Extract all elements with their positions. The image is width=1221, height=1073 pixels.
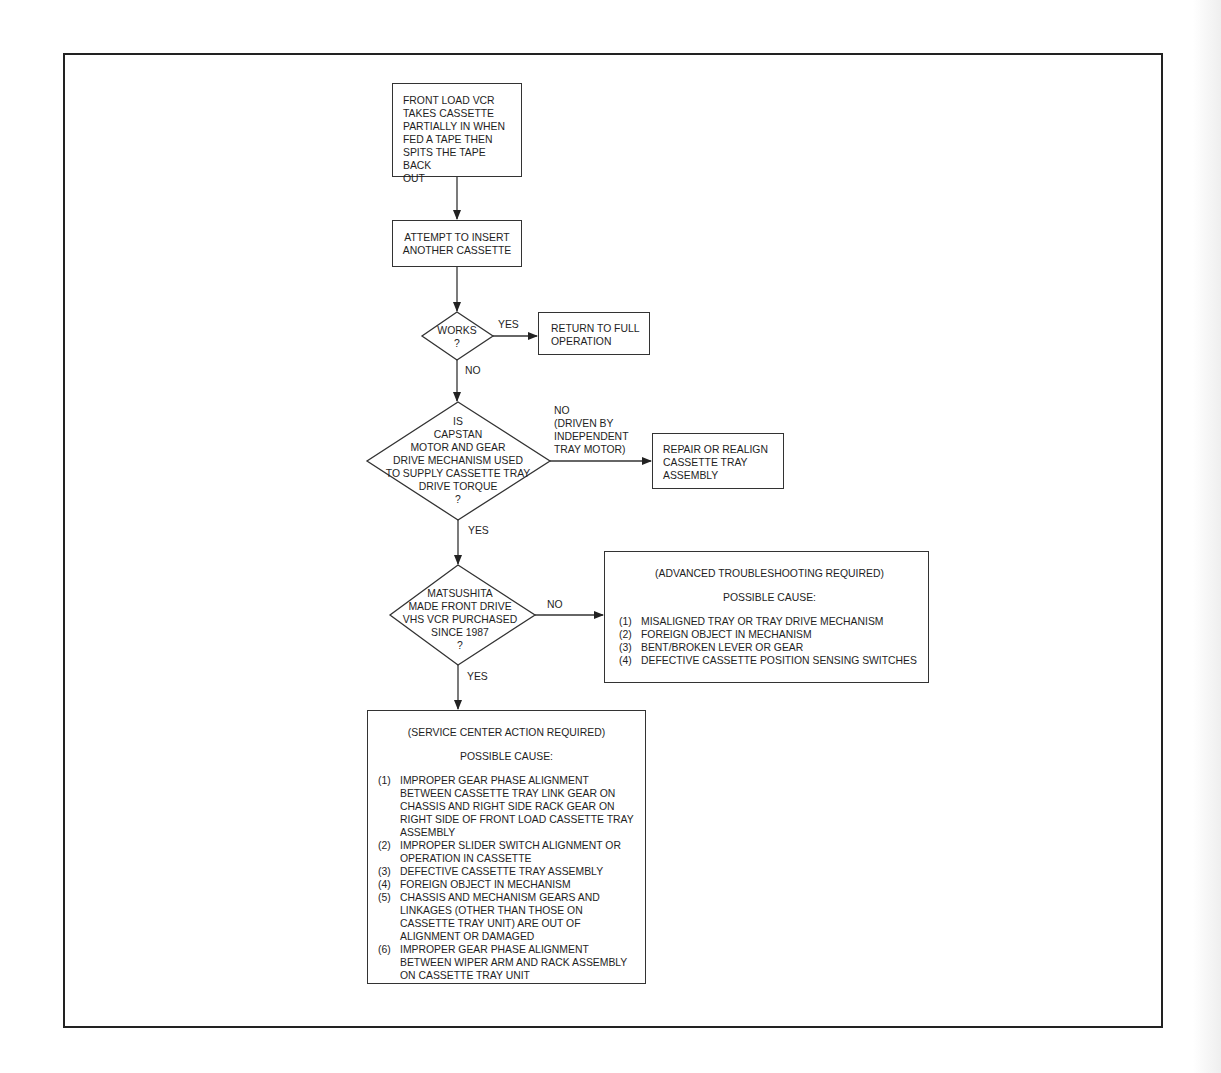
service-center-box: (SERVICE CENTER ACTION REQUIRED) POSSIBL… [367,710,646,984]
repair-box-text: REPAIR OR REALIGN CASSETTE TRAY ASSEMBLY [663,443,779,482]
attempt-box-text: ATTEMPT TO INSERT ANOTHER CASSETTE [397,231,517,257]
cause-item: (4)DEFECTIVE CASSETTE POSITION SENSING S… [619,654,920,667]
works-yes-label: YES [498,318,519,331]
advanced-troubleshooting-box: (ADVANCED TROUBLESHOOTING REQUIRED) POSS… [604,551,929,683]
return-box: RETURN TO FULL OPERATION [538,312,650,355]
advanced-subheading: POSSIBLE CAUSE: [619,591,920,604]
decision-matsushita-text: MATSUSHITA MADE FRONT DRIVE VHS VCR PURC… [403,587,517,652]
return-box-text: RETURN TO FULL OPERATION [551,322,645,348]
cause-item: (1)IMPROPER GEAR PHASE ALIGNMENT BETWEEN… [378,774,635,839]
cause-item: (3)BENT/BROKEN LEVER OR GEAR [619,641,920,654]
attempt-box: ATTEMPT TO INSERT ANOTHER CASSETTE [392,220,522,267]
matsushita-yes-label: YES [467,670,488,683]
advanced-heading: (ADVANCED TROUBLESHOOTING REQUIRED) [619,567,920,580]
capstan-no-label: NO (DRIVEN BY INDEPENDENT TRAY MOTOR) [554,404,628,456]
service-heading: (SERVICE CENTER ACTION REQUIRED) [378,726,635,739]
cause-item: (1)MISALIGNED TRAY OR TRAY DRIVE MECHANI… [619,615,920,628]
start-box: FRONT LOAD VCR TAKES CASSETTE PARTIALLY … [392,83,522,177]
advanced-cause-list: (1)MISALIGNED TRAY OR TRAY DRIVE MECHANI… [619,615,920,667]
service-cause-list: (1)IMPROPER GEAR PHASE ALIGNMENT BETWEEN… [378,774,635,982]
cause-item: (2)IMPROPER SLIDER SWITCH ALIGNMENT OR O… [378,839,635,865]
service-subheading: POSSIBLE CAUSE: [378,750,635,763]
decision-capstan-text: IS CAPSTAN MOTOR AND GEAR DRIVE MECHANIS… [386,415,531,506]
decision-works-text: WORKS ? [437,324,476,350]
matsushita-no-label: NO [547,598,563,611]
cause-item: (3)DEFECTIVE CASSETTE TRAY ASSEMBLY [378,865,635,878]
cause-item: (4)FOREIGN OBJECT IN MECHANISM [378,878,635,891]
cause-item: (5)CHASSIS AND MECHANISM GEARS AND LINKA… [378,891,635,943]
cause-item: (2)FOREIGN OBJECT IN MECHANISM [619,628,920,641]
works-no-label: NO [465,364,481,377]
cause-item: (6)IMPROPER GEAR PHASE ALIGNMENT BETWEEN… [378,943,635,982]
capstan-yes-label: YES [468,524,489,537]
start-box-text: FRONT LOAD VCR TAKES CASSETTE PARTIALLY … [403,94,515,185]
repair-box: REPAIR OR REALIGN CASSETTE TRAY ASSEMBLY [652,433,784,489]
